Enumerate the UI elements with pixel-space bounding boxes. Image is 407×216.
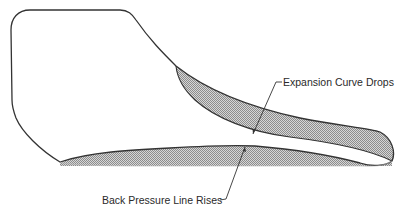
back-pressure-label: Back Pressure Line Rises (102, 195, 222, 206)
back-pressure-loss-area (60, 146, 392, 166)
expansion-curve-label: Expansion Curve Drops (283, 77, 394, 88)
indicator-diagram (0, 0, 407, 216)
